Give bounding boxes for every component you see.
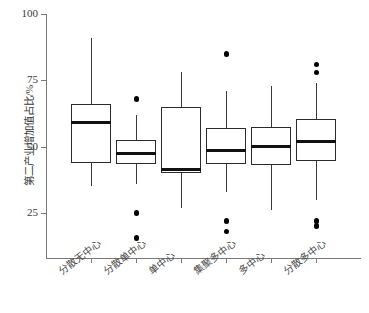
whisker-lower <box>226 164 227 192</box>
x-tick-label-4: 集聚多中心 <box>190 235 239 278</box>
outlier-point <box>314 223 320 229</box>
y-tick-mark <box>41 80 46 81</box>
outlier-point <box>134 96 140 102</box>
y-tick-label: 50 <box>8 141 38 152</box>
whisker-lower <box>316 161 317 199</box>
whisker-upper <box>271 86 272 127</box>
median-line <box>116 152 156 155</box>
median-line <box>206 149 246 152</box>
outlier-point <box>314 70 320 76</box>
outlier-point <box>134 210 140 216</box>
x-tick-label-2: 分散单中心 <box>100 235 149 278</box>
x-tick-label-5: 多中心 <box>235 248 268 278</box>
whisker-lower <box>271 165 272 210</box>
median-line <box>296 140 336 143</box>
box-rect <box>71 104 111 162</box>
x-tick-mark <box>271 258 272 263</box>
boxplot-chart: 第二产业增加值占比/% 255075100 分散无中心分散单中心单中心集聚多中心… <box>0 0 369 313</box>
x-tick-mark <box>316 258 317 263</box>
y-tick-label: 25 <box>8 207 38 218</box>
x-tick-mark <box>226 258 227 263</box>
median-line <box>71 121 111 124</box>
whisker-lower <box>136 164 137 184</box>
whisker-lower <box>91 163 92 187</box>
x-tick-mark <box>181 258 182 263</box>
outlier-point <box>224 229 230 235</box>
y-tick-label: 100 <box>8 8 38 19</box>
box-rect <box>206 128 246 164</box>
outlier-point <box>224 51 230 57</box>
outlier-point <box>314 62 320 68</box>
whisker-upper <box>181 72 182 106</box>
y-axis-line <box>46 14 47 259</box>
x-tick-label-1: 分散无中心 <box>55 235 104 278</box>
x-tick-label-3: 单中心 <box>145 248 178 278</box>
whisker-upper <box>226 91 227 128</box>
whisker-upper <box>136 115 137 140</box>
whisker-lower <box>181 173 182 207</box>
median-line <box>161 168 201 171</box>
whisker-upper <box>91 38 92 104</box>
x-tick-mark <box>91 258 92 263</box>
y-tick-mark <box>41 147 46 148</box>
outlier-point <box>224 218 230 224</box>
x-tick-mark <box>136 258 137 263</box>
whisker-upper <box>316 83 317 119</box>
x-tick-label-6: 分散多中心 <box>280 235 329 278</box>
median-line <box>251 145 291 148</box>
box-rect <box>161 107 201 173</box>
y-tick-label: 75 <box>8 74 38 85</box>
y-tick-mark <box>41 213 46 214</box>
y-tick-mark <box>41 14 46 15</box>
